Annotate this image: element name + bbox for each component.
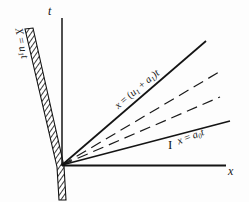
spacetime-diagram-figure: t x I X = u1t x = (u1 + a1)t x = a0t [0,0,249,202]
x-axis-label: x [228,165,233,177]
region-label-one: I [168,138,172,151]
piston-wall-band [25,28,66,200]
t-axis-label: t [48,5,51,17]
